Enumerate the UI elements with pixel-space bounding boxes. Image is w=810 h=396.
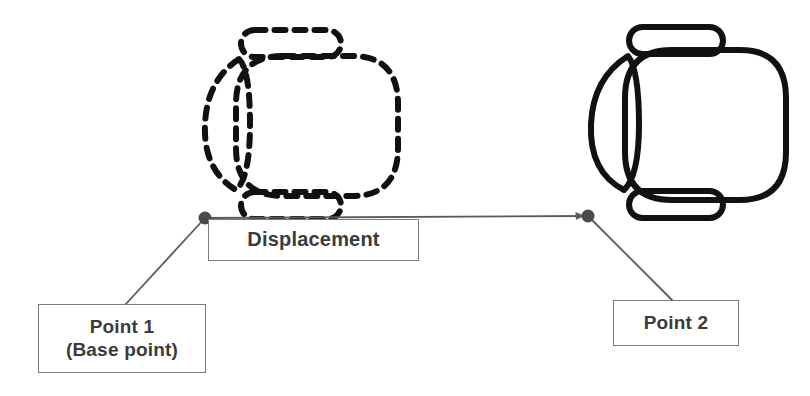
displacement-label-box: Displacement	[208, 219, 419, 261]
diagram-canvas: Displacement Point 1 (Base point) Point …	[0, 0, 810, 396]
seat-outline-moved	[625, 50, 786, 200]
chair-outline-original	[205, 30, 398, 219]
point2-label-text: Point 2	[644, 312, 709, 334]
target-point-marker	[582, 210, 595, 223]
point2-label-box: Point 2	[613, 300, 739, 346]
point1-label-box: Point 1 (Base point)	[38, 304, 206, 373]
leader-line-point2	[588, 216, 673, 301]
leader-line-point1	[125, 218, 205, 305]
point1-sublabel-text: (Base point)	[66, 339, 178, 361]
point1-label-text: Point 1	[90, 316, 155, 338]
backrest-crescent-moved	[591, 56, 639, 190]
seat-outline-original	[236, 56, 398, 196]
displacement-label-text: Displacement	[247, 228, 379, 252]
chair-outline-moved	[591, 27, 786, 218]
armrest-top-original	[241, 30, 341, 57]
